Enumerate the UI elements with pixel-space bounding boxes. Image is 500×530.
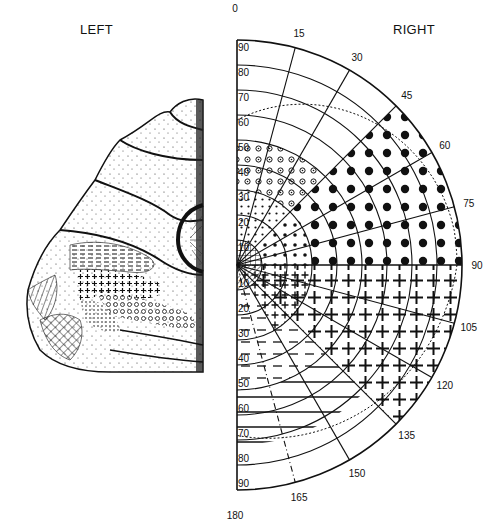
axis-tick-label: 90 bbox=[238, 478, 250, 489]
axis-tick-label: 75 bbox=[463, 198, 475, 209]
axis-tick-label: 70 bbox=[238, 428, 250, 439]
axis-tick-label: 70 bbox=[238, 92, 250, 103]
axis-tick-label: 80 bbox=[238, 453, 250, 464]
axis-tick-label: 10 bbox=[238, 242, 250, 253]
axis-tick-label: 15 bbox=[294, 28, 306, 39]
axis-tick-label: 40 bbox=[238, 167, 250, 178]
axis-tick-label: 40 bbox=[238, 353, 250, 364]
axis-tick-label: 30 bbox=[351, 52, 363, 63]
visual-field-polar-chart: 0153045607590105120135150165180908070605… bbox=[0, 0, 500, 530]
axis-tick-label: 30 bbox=[238, 328, 250, 339]
axis-tick-label: 60 bbox=[238, 403, 250, 414]
axis-tick-label: 20 bbox=[238, 303, 250, 314]
axis-tick-label: 120 bbox=[437, 380, 454, 391]
axis-tick-label: 105 bbox=[460, 322, 477, 333]
axis-tick-label: 90 bbox=[471, 260, 483, 271]
axis-tick-label: 0 bbox=[232, 3, 238, 14]
axis-tick-label: 20 bbox=[238, 217, 250, 228]
axis-tick-label: 10 bbox=[238, 278, 250, 289]
axis-tick-label: 180 bbox=[227, 510, 244, 521]
axis-tick-label: 80 bbox=[238, 67, 250, 78]
axis-tick-label: 60 bbox=[238, 117, 250, 128]
axis-tick-label: 30 bbox=[238, 192, 250, 203]
axis-tick-label: 50 bbox=[238, 378, 250, 389]
axis-tick-label: 165 bbox=[291, 492, 308, 503]
axis-tick-label: 45 bbox=[401, 90, 413, 101]
axis-tick-label: 90 bbox=[238, 42, 250, 53]
axis-tick-label: 150 bbox=[349, 468, 366, 479]
axis-tick-label: 60 bbox=[439, 140, 451, 151]
axis-tick-label: 50 bbox=[238, 142, 250, 153]
axis-tick-label: 135 bbox=[398, 430, 415, 441]
